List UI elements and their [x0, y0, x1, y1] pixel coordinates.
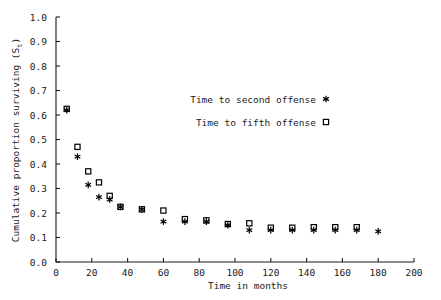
y-tick-label: 0.4 — [30, 159, 47, 170]
legend-marker-square — [323, 119, 328, 124]
y-tick-label: 0.0 — [30, 257, 47, 268]
x-tick-label: 160 — [334, 267, 351, 278]
data-point-star — [246, 227, 252, 234]
data-point-star — [96, 194, 102, 201]
chart-legend: Time to second offenseTime to fifth offe… — [190, 94, 329, 128]
y-tick-label: 1.0 — [30, 12, 47, 23]
x-tick-label: 200 — [405, 267, 422, 278]
x-axis-title: Time in months — [208, 280, 288, 291]
legend-label-1: Time to second offense — [190, 94, 316, 105]
x-tick-marks — [56, 258, 414, 262]
chart-canvas: 020406080100120140160180200 0.00.10.20.3… — [0, 0, 441, 300]
y-tick-label: 0.9 — [30, 36, 47, 47]
y-tick-label: 0.1 — [30, 232, 47, 243]
data-point-square — [96, 180, 101, 185]
x-tick-label: 80 — [193, 267, 205, 278]
data-point-star — [375, 228, 381, 235]
x-tick-label: 0 — [53, 267, 59, 278]
data-point-square — [161, 208, 166, 213]
y-tick-label: 0.3 — [30, 183, 47, 194]
axis-lines — [56, 17, 414, 262]
y-axis-title-group: Cumulative proportion surviving (St) — [10, 38, 24, 242]
data-point-star — [161, 218, 167, 225]
axes-group — [56, 17, 414, 262]
y-tick-label: 0.6 — [30, 110, 47, 121]
y-axis-title-main: Cumulative proportion surviving (S — [10, 47, 21, 242]
x-tick-label: 120 — [262, 267, 279, 278]
y-tick-label: 0.2 — [30, 208, 47, 219]
y-tick-label: 0.7 — [30, 85, 47, 96]
data-point-square — [247, 221, 252, 226]
y-tick-marks — [56, 17, 60, 262]
data-point-square — [86, 169, 91, 174]
legend-label-2: Time to fifth offense — [196, 117, 316, 128]
data-point-star — [75, 153, 81, 160]
survival-chart: 020406080100120140160180200 0.00.10.20.3… — [0, 0, 441, 300]
y-tick-label: 0.8 — [30, 61, 47, 72]
y-axis-title: Cumulative proportion surviving (St) — [10, 38, 24, 242]
x-tick-label: 60 — [158, 267, 170, 278]
x-tick-labels: 020406080100120140160180200 — [53, 267, 423, 278]
y-tick-labels: 0.00.10.20.30.40.50.60.70.80.91.0 — [30, 12, 47, 268]
x-tick-label: 40 — [122, 267, 134, 278]
x-tick-label: 180 — [370, 267, 387, 278]
data-point-square — [75, 144, 80, 149]
legend-marker-star — [323, 96, 329, 103]
y-axis-title-tail: ) — [10, 38, 21, 44]
y-tick-label: 0.5 — [30, 134, 47, 145]
x-tick-label: 140 — [298, 267, 315, 278]
data-point-star — [85, 182, 91, 189]
x-tick-label: 100 — [226, 267, 243, 278]
x-tick-label: 20 — [86, 267, 98, 278]
